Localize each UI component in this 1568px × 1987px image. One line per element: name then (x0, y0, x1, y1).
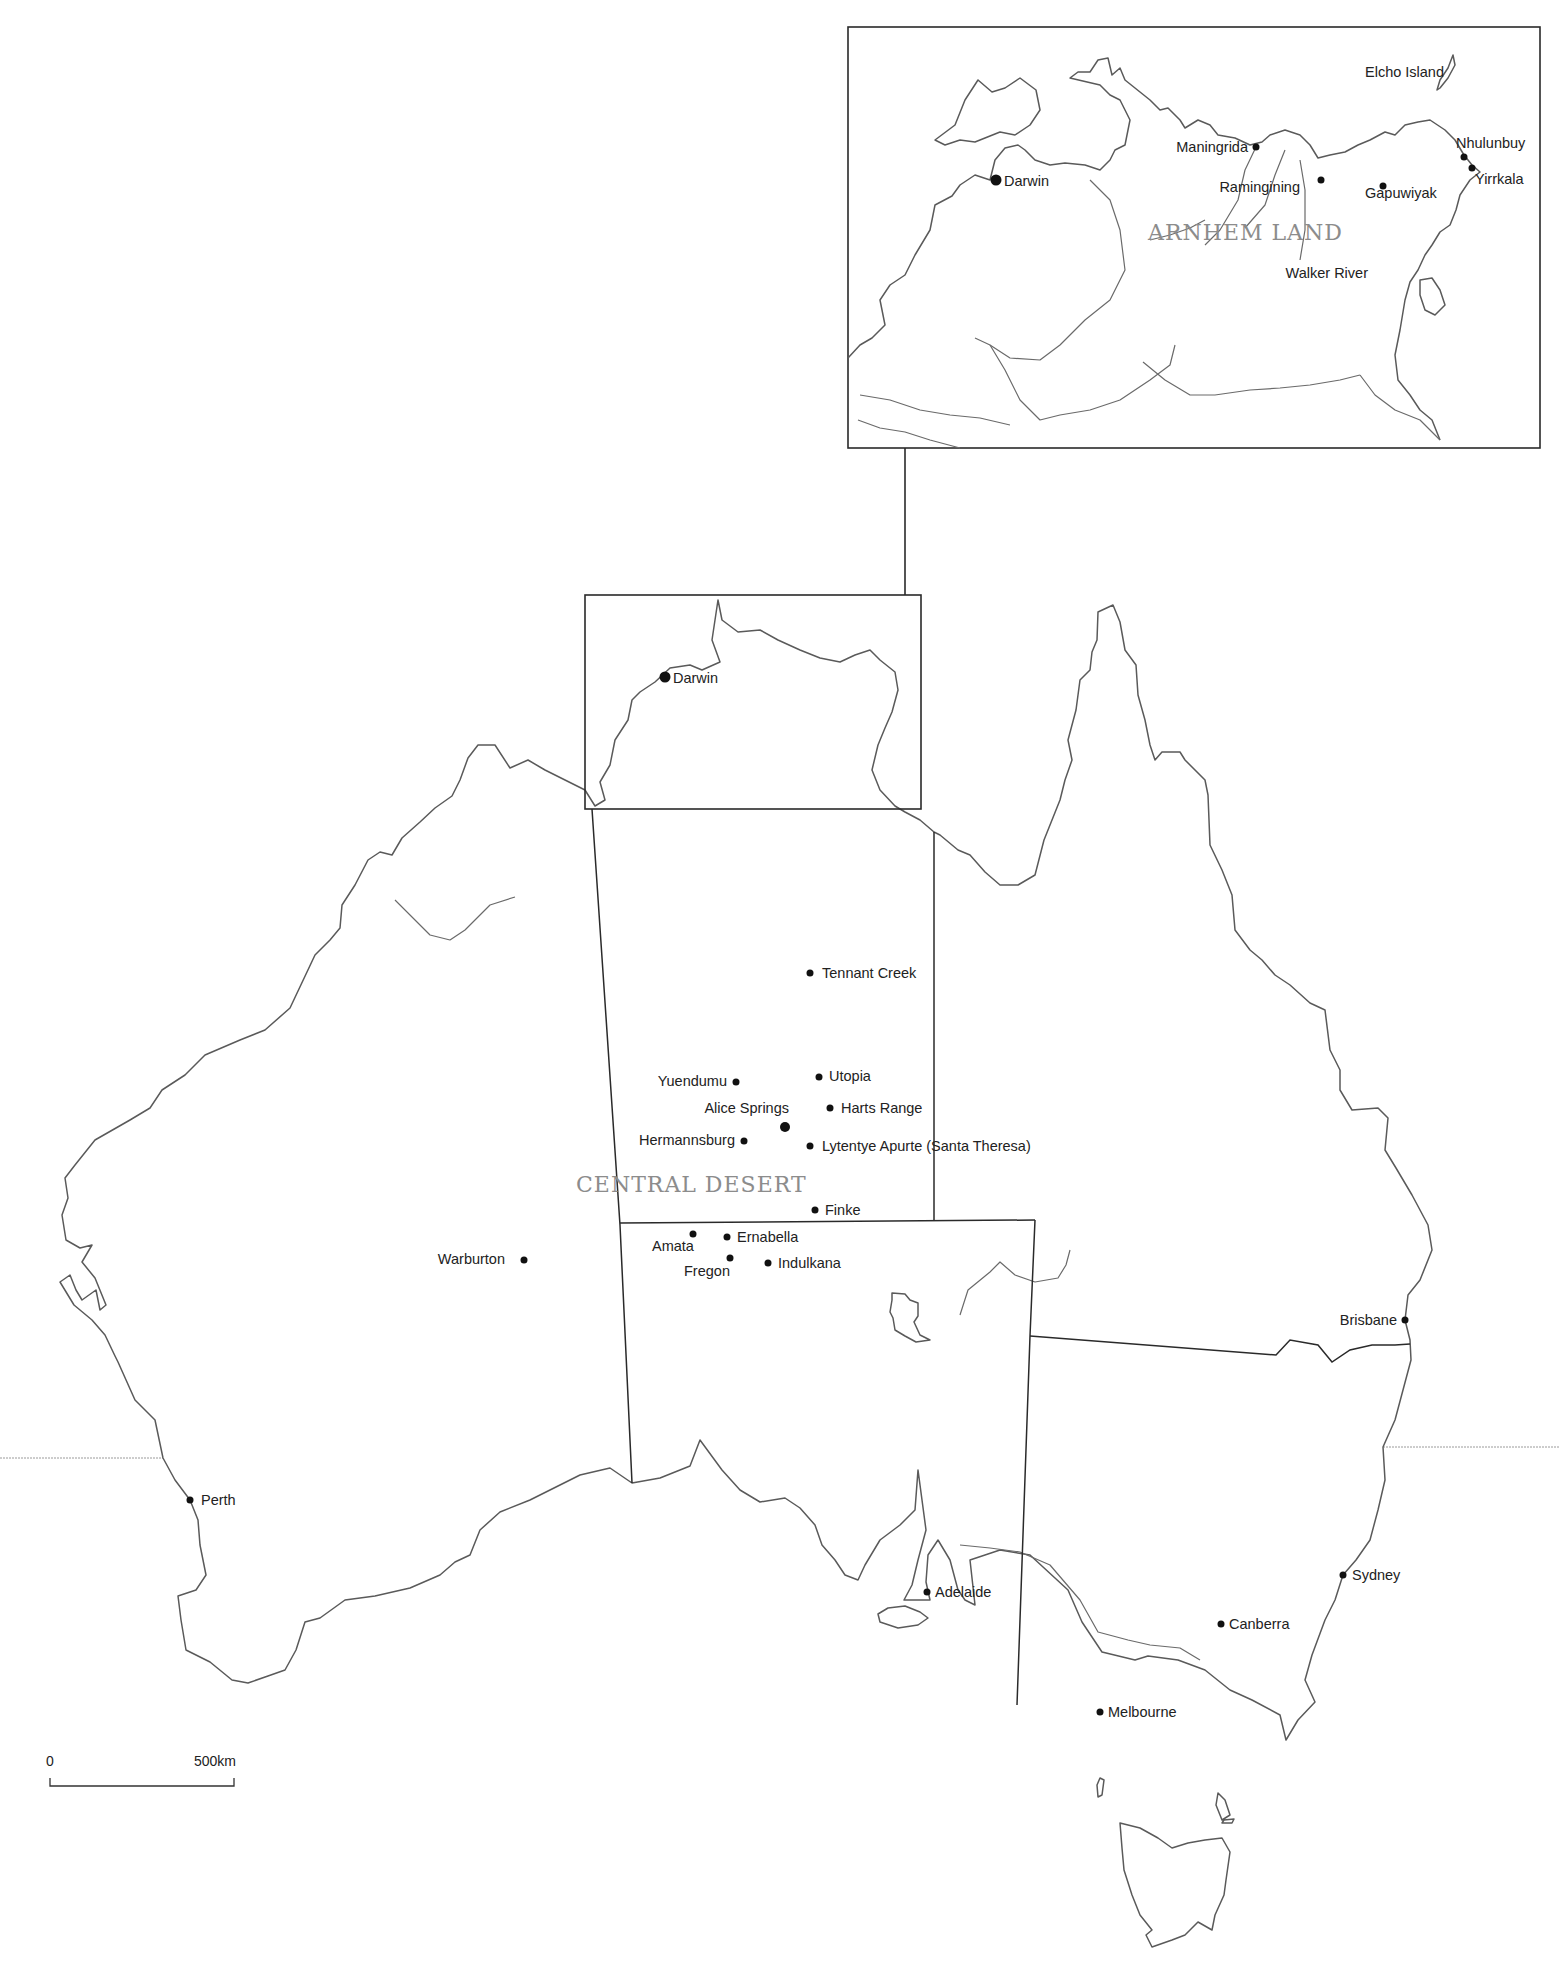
inset-river-6 (990, 345, 1175, 420)
place-adelaide-marker-icon (924, 1589, 931, 1596)
place-melbourne-marker-icon (1097, 1709, 1104, 1716)
place-melbourne-label: Melbourne (1108, 1704, 1177, 1720)
river-darling (960, 1250, 1070, 1315)
inset-place-maningrida-marker-icon (1253, 144, 1260, 151)
place-canberra-marker-icon (1218, 1621, 1225, 1628)
inset-melville-island (935, 78, 1040, 145)
mainland-coastline (60, 600, 1432, 1740)
place-alice-springs-label: Alice Springs (704, 1100, 789, 1116)
inset-river-10 (858, 420, 960, 448)
inset-place-nhulunbuy-label: Nhulunbuy (1456, 135, 1526, 151)
place-tennant-creek-label: Tennant Creek (822, 965, 917, 981)
scale-bar-end-label: 500km (194, 1753, 236, 1769)
border-qld-nsw (1030, 1336, 1410, 1362)
inset-place-markers: DarwinManingridaRaminginingGapuwiyakNhul… (991, 64, 1527, 281)
place-brisbane-label: Brisbane (1340, 1312, 1397, 1328)
place-warburton-label: Warburton (438, 1251, 505, 1267)
scale-bar-line (50, 1778, 234, 1786)
place-fregon-marker-icon (727, 1255, 734, 1262)
inset-place-gapuwiyak-label: Gapuwiyak (1365, 185, 1437, 201)
inset-river-8 (1360, 375, 1440, 440)
inset-place-darwin-marker-icon (991, 175, 1002, 186)
place-tennant-creek-marker-icon (807, 970, 814, 977)
border-nt-sa (620, 1220, 1035, 1223)
kangaroo-island (878, 1606, 928, 1628)
flinders-island (1216, 1793, 1234, 1823)
place-darwin-marker-icon (660, 672, 671, 683)
australia-map: ARNHEM LAND CENTRAL DESERT DarwinTennant… (0, 0, 1568, 1987)
inset-place-ramingining-label: Ramingining (1219, 179, 1300, 195)
scale-bar: 0 500km (46, 1753, 236, 1786)
river-murray (960, 1545, 1200, 1660)
place-darwin-label: Darwin (673, 670, 718, 686)
place-utopia-label: Utopia (829, 1068, 872, 1084)
inset-map (848, 55, 1480, 448)
inset-place-walker-river-label: Walker River (1286, 265, 1369, 281)
inset-place-elcho-island-label: Elcho Island (1365, 64, 1444, 80)
border-sa-east (1017, 1220, 1035, 1705)
scale-bar-start-label: 0 (46, 1753, 54, 1769)
place-indulkana-marker-icon (765, 1260, 772, 1267)
inset-coastline (848, 58, 1480, 440)
place-lytentye-apurte-santa-theresa-marker-icon (807, 1143, 814, 1150)
place-perth-marker-icon (187, 1497, 194, 1504)
place-ernabella-marker-icon (724, 1234, 731, 1241)
place-perth-label: Perth (201, 1492, 236, 1508)
place-yuendumu-marker-icon (733, 1079, 740, 1086)
place-ernabella-label: Ernabella (737, 1229, 799, 1245)
place-amata-label: Amata (652, 1238, 695, 1254)
border-wa (592, 809, 632, 1483)
place-lytentye-apurte-santa-theresa-label: Lytentye Apurte (Santa Theresa) (822, 1138, 1031, 1154)
inset-river-4 (975, 180, 1125, 360)
region-label-arnhem-land: ARNHEM LAND (1147, 220, 1343, 245)
place-sydney-marker-icon (1340, 1572, 1347, 1579)
tasmania (1120, 1823, 1230, 1947)
place-finke-label: Finke (825, 1202, 860, 1218)
place-indulkana-label: Indulkana (778, 1255, 842, 1271)
inset-river-7 (1143, 362, 1360, 395)
place-amata-marker-icon (690, 1231, 697, 1238)
place-harts-range-label: Harts Range (841, 1100, 922, 1116)
inset-place-ramingining-marker-icon (1318, 177, 1325, 184)
inset-river-9 (860, 395, 1010, 425)
place-utopia-marker-icon (816, 1074, 823, 1081)
inset-place-nhulunbuy-marker-icon (1461, 154, 1468, 161)
lake-eyre (890, 1293, 930, 1342)
inset-place-yirrkala-label: Yirrkala (1475, 171, 1525, 187)
inset-groote-eylandt (1420, 278, 1445, 315)
place-harts-range-marker-icon (827, 1105, 834, 1112)
place-alice-springs-marker-icon (780, 1122, 790, 1132)
inset-place-darwin-label: Darwin (1004, 173, 1049, 189)
inset-river-3 (1300, 160, 1305, 260)
place-adelaide-label: Adelaide (935, 1584, 991, 1600)
place-brisbane-marker-icon (1402, 1317, 1409, 1324)
arnhem-locator-frame (585, 595, 921, 809)
place-sydney-label: Sydney (1352, 1567, 1401, 1583)
place-fregon-label: Fregon (684, 1263, 730, 1279)
place-canberra-label: Canberra (1229, 1616, 1290, 1632)
place-hermannsburg-marker-icon (741, 1138, 748, 1145)
place-yuendumu-label: Yuendumu (658, 1073, 727, 1089)
inset-place-maningrida-label: Maningrida (1176, 139, 1249, 155)
place-warburton-marker-icon (521, 1257, 528, 1264)
region-label-central-desert: CENTRAL DESERT (576, 1172, 807, 1197)
river-kimberley (395, 897, 515, 940)
king-island (1097, 1778, 1104, 1797)
place-hermannsburg-label: Hermannsburg (639, 1132, 735, 1148)
place-finke-marker-icon (812, 1207, 819, 1214)
